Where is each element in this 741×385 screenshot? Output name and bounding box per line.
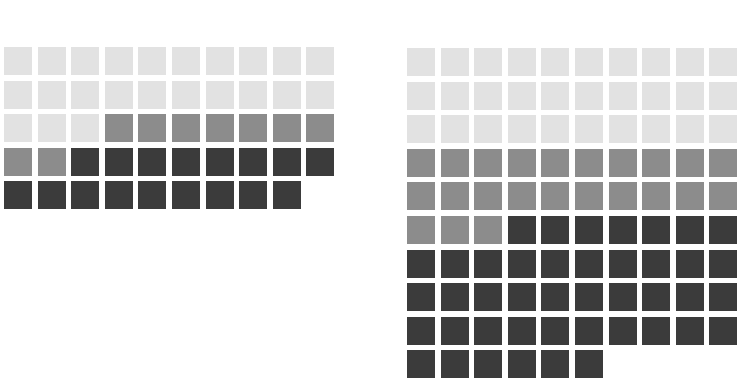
waffle-cell-dark [709, 250, 737, 278]
waffle-cell-light [676, 48, 704, 76]
waffle-cell-dark [609, 317, 637, 345]
waffle-cell-light [239, 81, 267, 109]
waffle-cell-dark [239, 148, 267, 176]
waffle-cell-medium [38, 148, 66, 176]
waffle-cell-dark [206, 148, 234, 176]
waffle-cell-light [273, 81, 301, 109]
waffle-cell-light [474, 48, 502, 76]
waffle-cell-medium [642, 182, 670, 210]
waffle-cell-dark [306, 148, 334, 176]
waffle-cell-light [609, 115, 637, 143]
waffle-cell-light [71, 114, 99, 142]
waffle-cell-medium [172, 114, 200, 142]
waffle-cell-dark [676, 317, 704, 345]
waffle-cell-dark [407, 350, 435, 378]
waffle-cell-medium [541, 149, 569, 177]
waffle-cell-dark [541, 216, 569, 244]
waffle-cell-dark [474, 250, 502, 278]
waffle-cell-medium [609, 149, 637, 177]
waffle-cell-dark [541, 250, 569, 278]
waffle-cell-light [38, 114, 66, 142]
waffle-cell-dark [709, 283, 737, 311]
waffle-cell-dark [609, 250, 637, 278]
waffle-cell-dark [642, 250, 670, 278]
waffle-cell-dark [441, 350, 469, 378]
waffle-cell-dark [71, 148, 99, 176]
waffle-cell-medium [474, 182, 502, 210]
waffle-cell-light [172, 81, 200, 109]
waffle-cell-dark [609, 283, 637, 311]
waffle-cell-light [306, 47, 334, 75]
waffle-cell-dark [642, 283, 670, 311]
waffle-cell-light [407, 115, 435, 143]
waffle-cell-dark [575, 250, 603, 278]
waffle-cell-dark [407, 283, 435, 311]
waffle-cell-light [138, 81, 166, 109]
waffle-cell-light [575, 115, 603, 143]
waffle-cell-dark [441, 250, 469, 278]
waffle-cell-dark [541, 283, 569, 311]
waffle-cell-dark [575, 317, 603, 345]
waffle-cell-dark [609, 216, 637, 244]
waffle-cell-medium [441, 182, 469, 210]
waffle-cell-light [575, 48, 603, 76]
waffle-cell-medium [273, 114, 301, 142]
waffle-cell-medium [709, 182, 737, 210]
waffle-cell-light [541, 82, 569, 110]
waffle-cell-medium [474, 149, 502, 177]
waffle-cell-light [105, 47, 133, 75]
waffle-chart-right [407, 48, 737, 378]
waffle-cell-light [441, 48, 469, 76]
waffle-cell-light [508, 82, 536, 110]
waffle-cell-medium [441, 216, 469, 244]
waffle-cell-light [441, 82, 469, 110]
waffle-cell-light [4, 114, 32, 142]
waffle-cell-medium [407, 182, 435, 210]
waffle-cell-medium [575, 182, 603, 210]
waffle-cell-dark [575, 216, 603, 244]
waffle-cell-medium [508, 182, 536, 210]
waffle-cell-light [642, 48, 670, 76]
waffle-cell-light [676, 82, 704, 110]
waffle-cell-light [138, 47, 166, 75]
waffle-cell-light [4, 47, 32, 75]
waffle-cell-light [38, 47, 66, 75]
waffle-cell-light [105, 81, 133, 109]
waffle-cell-dark [676, 216, 704, 244]
waffle-cell-medium [4, 148, 32, 176]
waffle-cell-light [474, 115, 502, 143]
waffle-cell-dark [105, 148, 133, 176]
waffle-cell-medium [676, 149, 704, 177]
waffle-cell-dark [38, 181, 66, 209]
waffle-cell-medium [642, 149, 670, 177]
waffle-cell-light [38, 81, 66, 109]
waffle-cell-light [642, 82, 670, 110]
waffle-cell-dark [441, 317, 469, 345]
waffle-cell-medium [407, 216, 435, 244]
waffle-cell-light [609, 82, 637, 110]
waffle-cell-dark [709, 317, 737, 345]
waffle-cell-light [541, 48, 569, 76]
waffle-chart-left [4, 47, 334, 209]
waffle-cell-dark [138, 181, 166, 209]
waffle-cell-dark [508, 317, 536, 345]
waffle-cell-dark [273, 181, 301, 209]
waffle-cell-medium [441, 149, 469, 177]
waffle-cell-dark [508, 283, 536, 311]
waffle-cell-dark [676, 250, 704, 278]
waffle-cell-light [508, 115, 536, 143]
waffle-cell-dark [172, 148, 200, 176]
waffle-cell-light [709, 115, 737, 143]
waffle-cell-dark [105, 181, 133, 209]
waffle-cell-dark [206, 181, 234, 209]
waffle-cell-medium [239, 114, 267, 142]
waffle-cell-light [609, 48, 637, 76]
waffle-cell-light [306, 81, 334, 109]
waffle-cell-light [508, 48, 536, 76]
waffle-cell-medium [676, 182, 704, 210]
waffle-cell-dark [407, 317, 435, 345]
waffle-cell-dark [508, 216, 536, 244]
waffle-cell-light [709, 48, 737, 76]
waffle-cell-dark [541, 350, 569, 378]
waffle-cell-medium [105, 114, 133, 142]
